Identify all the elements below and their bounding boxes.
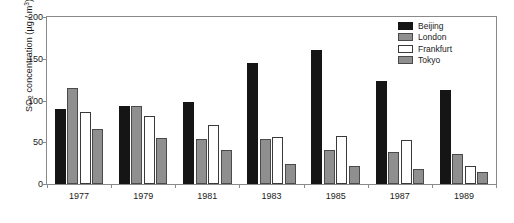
x-axis-tick-mark: [111, 184, 112, 188]
bar-london-1989: [452, 154, 463, 184]
legend-label-london: London: [418, 32, 446, 42]
legend-swatch-beijing: [398, 22, 413, 30]
y-axis-tick-mark: [43, 59, 47, 60]
legend-item-frankfurt[interactable]: Frankfurt: [398, 43, 452, 55]
x-axis-tick-mark: [175, 184, 176, 188]
legend-swatch-london: [398, 33, 413, 41]
bar-frankfurt-1987: [401, 140, 412, 184]
bar-frankfurt-1989: [465, 166, 476, 184]
chart-figure: SO2 concentration (µg / m3) 050100150200…: [0, 0, 514, 223]
bar-tokyo-1983: [285, 164, 296, 184]
x-axis-tick-mark: [239, 184, 240, 188]
bar-frankfurt-1983: [272, 137, 283, 184]
bar-tokyo-1977: [92, 129, 103, 184]
bar-tokyo-1979: [156, 138, 167, 184]
bar-beijing-1987: [376, 81, 387, 184]
y-axis-tick-mark: [43, 17, 47, 18]
bar-tokyo-1981: [221, 150, 232, 184]
x-axis-tick-mark: [496, 184, 497, 188]
bar-group: [247, 17, 296, 184]
bar-london-1977: [67, 88, 78, 184]
bar-london-1985: [324, 150, 335, 184]
y-axis-tick-label: 150: [21, 54, 43, 64]
bar-london-1979: [131, 106, 142, 184]
x-axis-label-1981: 1981: [185, 191, 229, 201]
x-axis-label-1987: 1987: [378, 191, 422, 201]
x-axis-label-1989: 1989: [442, 191, 486, 201]
legend-item-beijing[interactable]: Beijing: [398, 20, 452, 32]
x-axis-label-1985: 1985: [314, 191, 358, 201]
bar-london-1981: [196, 139, 207, 184]
bar-tokyo-1985: [349, 166, 360, 184]
bar-frankfurt-1979: [144, 116, 155, 184]
bar-beijing-1979: [119, 106, 130, 184]
bar-frankfurt-1985: [336, 136, 347, 184]
legend-item-london[interactable]: London: [398, 32, 452, 44]
bar-group: [119, 17, 168, 184]
y-axis-tick-mark: [43, 142, 47, 143]
y-axis-tick-label: 200: [21, 12, 43, 22]
legend-swatch-frankfurt: [398, 45, 413, 53]
y-axis-title-suffix: ): [24, 0, 34, 2]
x-axis-label-1983: 1983: [250, 191, 294, 201]
x-axis-label-1979: 1979: [121, 191, 165, 201]
legend-label-frankfurt: Frankfurt: [418, 44, 452, 54]
bar-beijing-1977: [55, 109, 66, 184]
bar-beijing-1981: [183, 102, 194, 184]
bar-london-1983: [260, 139, 271, 184]
y-axis-tick-label: 0: [21, 179, 43, 189]
bar-london-1987: [388, 152, 399, 184]
x-axis-tick-mark: [47, 184, 48, 188]
y-axis-tick-label: 50: [21, 137, 43, 147]
bar-group: [55, 17, 104, 184]
bar-tokyo-1989: [477, 172, 488, 184]
bar-beijing-1989: [440, 90, 451, 184]
legend-swatch-tokyo: [398, 56, 413, 64]
legend-label-tokyo: Tokyo: [418, 55, 440, 65]
bar-group: [311, 17, 360, 184]
legend-label-beijing: Beijing: [418, 21, 444, 31]
bar-beijing-1983: [247, 63, 258, 184]
y-axis-tick-mark: [43, 101, 47, 102]
bar-frankfurt-1977: [80, 112, 91, 184]
x-axis-tick-mark: [304, 184, 305, 188]
x-axis-label-1977: 1977: [57, 191, 101, 201]
chart-legend: BeijingLondonFrankfurtTokyo: [398, 20, 452, 66]
x-axis-tick-mark: [432, 184, 433, 188]
bar-group: [183, 17, 232, 184]
x-axis-tick-mark: [368, 184, 369, 188]
bar-frankfurt-1981: [208, 125, 219, 184]
bar-tokyo-1987: [413, 169, 424, 184]
legend-item-tokyo[interactable]: Tokyo: [398, 55, 452, 67]
bar-beijing-1985: [311, 50, 322, 184]
y-axis-tick-label: 100: [21, 96, 43, 106]
y-axis-title-superscript: 3: [23, 2, 30, 6]
